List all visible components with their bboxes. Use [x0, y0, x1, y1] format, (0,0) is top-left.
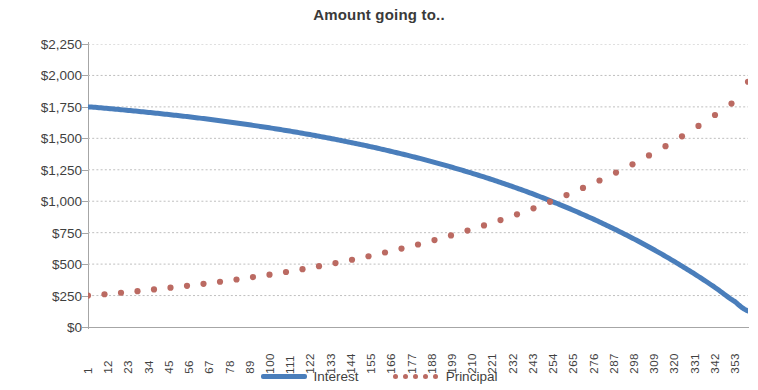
legend-dot-icon	[393, 374, 398, 379]
y-axis-tick-label: $1,250	[6, 162, 82, 177]
legend-swatch-line-icon	[261, 374, 307, 379]
chart-legend: InterestPrincipal	[0, 369, 758, 384]
y-axis-tick-label: $1,500	[6, 131, 82, 146]
chart-container: Amount going to.. $2,250$2,000$1,750$1,5…	[0, 0, 758, 390]
x-axis-labels: 1122334455667788910011112213314415516617…	[88, 330, 748, 374]
y-axis-tick-mark	[82, 233, 88, 234]
legend-dot-icon	[423, 374, 428, 379]
y-axis-tick-label: $2,250	[6, 37, 82, 52]
y-axis-tick-label: $1,000	[6, 194, 82, 209]
plot-svg	[88, 44, 748, 327]
y-axis-tick-mark	[82, 170, 88, 171]
plot-area	[88, 44, 748, 327]
series-dots-principal	[88, 79, 748, 299]
x-axis-line	[88, 327, 749, 328]
y-axis-tick-label: $750	[6, 225, 82, 240]
y-axis-tick-label: $250	[6, 288, 82, 303]
y-axis-tick-mark	[82, 327, 88, 328]
y-axis-tick-mark	[82, 107, 88, 108]
y-axis-tick-mark	[82, 44, 88, 45]
legend-dot-icon	[413, 374, 418, 379]
series-line-interest	[88, 107, 748, 311]
y-axis-tick-mark	[82, 201, 88, 202]
legend-label: Interest	[314, 369, 359, 384]
legend-swatch-dots-icon	[393, 374, 439, 379]
y-axis-tick-label: $0	[6, 320, 82, 335]
y-axis-tick-mark	[82, 138, 88, 139]
y-axis-tick-label: $2,000	[6, 68, 82, 83]
legend-item-principal[interactable]: Principal	[393, 369, 498, 384]
legend-item-interest[interactable]: Interest	[261, 369, 359, 384]
y-axis-tick-label: $500	[6, 257, 82, 272]
legend-label: Principal	[446, 369, 498, 384]
chart-title: Amount going to..	[0, 6, 758, 23]
y-axis-tick-label: $1,750	[6, 99, 82, 114]
legend-dot-icon	[403, 374, 408, 379]
y-axis-tick-mark	[82, 75, 88, 76]
legend-dot-icon	[433, 374, 438, 379]
y-axis-labels: $2,250$2,000$1,750$1,500$1,250$1,000$750…	[0, 0, 82, 390]
y-axis-tick-mark	[82, 296, 88, 297]
y-axis-tick-mark	[82, 264, 88, 265]
